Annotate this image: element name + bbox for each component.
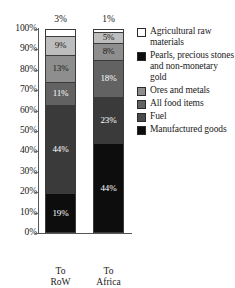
segment-value-label: 44% bbox=[101, 184, 117, 193]
segment-value-label: 13% bbox=[53, 64, 69, 73]
bar-top-label: 1% bbox=[93, 14, 124, 24]
legend-swatch-icon bbox=[137, 28, 146, 37]
legend-item-pearls-precious-stones-and-non-monetary-gold[interactable]: Pearls, precious stones and non-monetary… bbox=[137, 50, 234, 83]
bar-group-to-africa: 1%5%8%18%23%44%ToAfrica bbox=[93, 29, 124, 233]
bar-group-to-row: 3%9%13%11%44%19%To RoW bbox=[45, 29, 76, 233]
y-axis-tick-30: 30% bbox=[1, 167, 37, 176]
bar-top-label: 3% bbox=[45, 14, 76, 24]
legend-label: Fuel bbox=[150, 111, 167, 122]
y-axis-tick-90: 90% bbox=[1, 44, 37, 53]
bar-segment-ores-and-metals[interactable]: 13% bbox=[46, 55, 75, 82]
segment-value-label: 18% bbox=[101, 74, 117, 83]
legend-label: Ores and metals bbox=[150, 85, 210, 96]
y-axis-tick-40: 40% bbox=[1, 146, 37, 155]
segment-value-label: 9% bbox=[55, 41, 67, 50]
y-axis-tick-10: 10% bbox=[1, 208, 37, 217]
y-axis-tick-50: 50% bbox=[1, 126, 37, 135]
legend-swatch-icon bbox=[137, 52, 146, 61]
x-axis-category-label: ToAfrica bbox=[93, 266, 124, 288]
category-label-line: To bbox=[93, 266, 124, 277]
y-axis-tick-100: 100% bbox=[1, 24, 37, 33]
legend-swatch-icon bbox=[137, 87, 146, 96]
x-axis-line bbox=[38, 233, 132, 234]
legend-item-manufactured-goods[interactable]: Manufactured goods bbox=[137, 124, 234, 135]
bar-segment-pearls-precious-stones-and-non-monetary-gold[interactable]: 5% bbox=[94, 32, 123, 43]
category-label-line: Africa bbox=[93, 277, 124, 288]
bar-segment-pearls-precious-stones-and-non-monetary-gold[interactable]: 9% bbox=[46, 36, 75, 55]
segment-value-label: 5% bbox=[103, 33, 115, 42]
legend-label: Agricultural raw materials bbox=[150, 26, 234, 48]
legend-swatch-icon bbox=[137, 126, 146, 135]
bar-segment-all-food-items[interactable]: 18% bbox=[94, 60, 123, 97]
y-axis-tick-60: 60% bbox=[1, 106, 37, 115]
legend-swatch-icon bbox=[137, 113, 146, 122]
x-axis-category-label: To RoW bbox=[45, 266, 76, 288]
chart-legend: Agricultural raw materialsPearls, precio… bbox=[137, 26, 234, 137]
legend-label: Pearls, precious stones and non-monetary… bbox=[150, 50, 234, 83]
legend-label: Manufactured goods bbox=[150, 124, 227, 135]
bar-segment-manufactured-goods[interactable]: 44% bbox=[94, 143, 123, 232]
legend-item-all-food-items[interactable]: All food items bbox=[137, 98, 234, 109]
bar-segment-all-food-items[interactable]: 11% bbox=[46, 82, 75, 105]
bar-segment-ores-and-metals[interactable]: 8% bbox=[94, 43, 123, 60]
segment-value-label: 23% bbox=[101, 116, 117, 125]
category-label-line: To RoW bbox=[45, 266, 76, 288]
segment-value-label: 8% bbox=[103, 47, 115, 56]
segment-value-label: 44% bbox=[53, 145, 69, 154]
legend-item-ores-and-metals[interactable]: Ores and metals bbox=[137, 85, 234, 96]
bar-segment-manufactured-goods[interactable]: 19% bbox=[46, 193, 75, 232]
legend-label: All food items bbox=[150, 98, 204, 109]
stacked-bar[interactable]: 9%13%11%44%19% bbox=[45, 29, 76, 233]
y-axis-tick-0: 0% bbox=[1, 228, 37, 237]
bar-segment-fuel[interactable]: 23% bbox=[94, 97, 123, 144]
y-axis-tick-80: 80% bbox=[1, 65, 37, 74]
legend-swatch-icon bbox=[137, 100, 146, 109]
y-axis-tick-20: 20% bbox=[1, 187, 37, 196]
segment-value-label: 19% bbox=[53, 209, 69, 218]
legend-item-fuel[interactable]: Fuel bbox=[137, 111, 234, 122]
legend-item-agricultural-raw-materials[interactable]: Agricultural raw materials bbox=[137, 26, 234, 48]
stacked-bar[interactable]: 5%8%18%23%44% bbox=[93, 29, 124, 233]
segment-value-label: 11% bbox=[53, 89, 69, 98]
y-axis-tick-70: 70% bbox=[1, 85, 37, 94]
y-axis-line bbox=[38, 28, 39, 234]
y-axis-tick-labels: 100%90%80%70%60%50%40%30%20%10%0% bbox=[0, 0, 37, 269]
bar-segment-fuel[interactable]: 44% bbox=[46, 105, 75, 194]
